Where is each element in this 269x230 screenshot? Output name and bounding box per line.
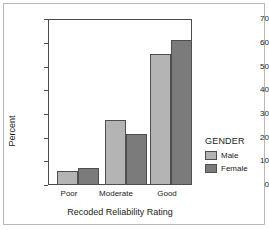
y-tick-label-40: 40 <box>225 86 269 94</box>
bar-good-female[interactable] <box>171 40 192 185</box>
legend-label-male: Male <box>221 151 238 160</box>
y-tick-mark-0 <box>44 185 48 186</box>
y-tick-label-70: 70 <box>225 15 269 23</box>
legend-swatch-male-icon <box>205 151 217 160</box>
bar-group-poor <box>57 19 99 185</box>
bar-poor-male[interactable] <box>57 171 78 185</box>
x-axis-title: Recoded Reliability Rating <box>30 207 210 217</box>
x-tick-label-poor: Poor <box>48 189 90 198</box>
legend: GENDER Male Female <box>205 136 267 177</box>
legend-item-female[interactable]: Female <box>205 164 267 173</box>
x-tick-label-moderate: Moderate <box>92 189 140 198</box>
bar-moderate-female[interactable] <box>126 134 147 185</box>
bar-poor-female[interactable] <box>78 168 99 185</box>
bar-group-good <box>150 19 192 185</box>
legend-swatch-female-icon <box>205 164 217 173</box>
legend-title: GENDER <box>205 136 267 146</box>
y-tick-label-30: 30 <box>225 110 269 118</box>
y-tick-label-50: 50 <box>225 63 269 71</box>
bar-group-moderate <box>105 19 147 185</box>
legend-label-female: Female <box>221 164 248 173</box>
legend-item-male[interactable]: Male <box>205 151 267 160</box>
bars-layer <box>48 19 192 185</box>
x-tick-label-good: Good <box>145 189 189 198</box>
chart-figure: 70 60 50 40 30 20 10 0 Poor <box>0 0 269 230</box>
y-tick-label-0: 0 <box>225 181 269 189</box>
y-tick-label-60: 60 <box>225 39 269 47</box>
bar-moderate-male[interactable] <box>105 120 126 185</box>
y-axis-title: Percent <box>7 96 17 166</box>
bar-good-male[interactable] <box>150 54 171 185</box>
